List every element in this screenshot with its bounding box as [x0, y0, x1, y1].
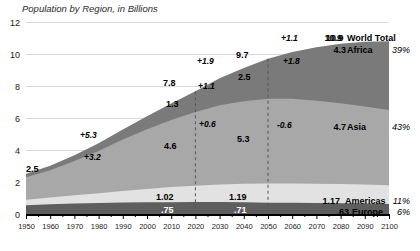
annotation-africa-upper-2020-2050: +1.1	[198, 81, 215, 91]
x-tick-2060: 2060	[280, 222, 306, 231]
point-label-asia-2020: 4.6	[164, 141, 177, 151]
legend-value-americas: 1.17	[318, 196, 340, 206]
y-tick-2: 2	[2, 178, 20, 188]
y-tick-10: 10	[2, 50, 20, 60]
legend-pct-asia: 43%	[386, 122, 410, 132]
x-tick-2100: 2100	[377, 222, 403, 231]
x-tick-2090: 2090	[352, 222, 378, 231]
x-tick-1990: 1990	[110, 222, 136, 231]
legend-pct-europe: 6%	[386, 207, 410, 217]
chart-root: Population by Region, in Billions 12 10 …	[0, 0, 420, 251]
chart-title: Population by Region, in Billions	[22, 3, 158, 14]
point-label-americas-2050: 1.19	[229, 192, 247, 202]
y-tick-12: 12	[2, 18, 20, 28]
annotation-africa-2050-2100: +1.8	[283, 56, 300, 66]
total-label-2020: 7.8	[163, 78, 176, 88]
legend-name-europe: Europe	[352, 207, 383, 217]
y-tick-8: 8	[2, 82, 20, 92]
annotation-africa-2020-2050: +1.9	[197, 56, 214, 66]
legend-value-europe: .63	[327, 207, 349, 217]
x-tick-1970: 1970	[62, 222, 88, 231]
y-tick-6: 6	[2, 114, 20, 124]
x-tick-2020: 2020	[183, 222, 209, 231]
legend-pct-americas: 11%	[386, 196, 410, 206]
legend-value-world-total: 10.9	[320, 33, 342, 43]
y-tick-0: 0	[2, 210, 20, 220]
point-label-africa-2050: 2.5	[238, 72, 251, 82]
x-tick-2000: 2000	[135, 222, 161, 231]
x-tick-2040: 2040	[231, 222, 257, 231]
point-label-europe-2050: .71	[234, 205, 247, 215]
annotation-total-2050-2100: +1.1	[281, 33, 298, 43]
x-tick-2010: 2010	[159, 222, 185, 231]
legend-name-world-total: World Total	[347, 33, 396, 43]
total-label-1950: 2.5	[26, 164, 39, 174]
legend-name-americas: Americas	[345, 196, 386, 206]
x-tick-1960: 1960	[38, 222, 64, 231]
x-tick-2050: 2050	[256, 222, 282, 231]
point-label-africa-2020: 1.3	[166, 99, 179, 109]
x-tick-2070: 2070	[304, 222, 330, 231]
x-tick-2080: 2080	[328, 222, 354, 231]
point-label-asia-2050: 5.3	[237, 134, 250, 144]
legend-value-asia: 4.7	[324, 122, 346, 132]
annotation-asia-1950-2020: +5.3	[80, 130, 97, 140]
point-label-europe-2020: .75	[161, 205, 174, 215]
total-label-2050: 9.7	[236, 50, 249, 60]
y-tick-4: 4	[2, 146, 20, 156]
annotation-asia-2020-2050: +0.6	[199, 119, 216, 129]
annotation-asia-2050-2100: -0.6	[277, 120, 292, 130]
x-tick-1980: 1980	[86, 222, 112, 231]
legend-name-africa: Africa	[347, 45, 373, 55]
legend-value-africa: 4.3	[324, 45, 346, 55]
point-label-americas-2020: 1.02	[156, 192, 174, 202]
legend-name-asia: Asia	[347, 122, 366, 132]
legend-pct-africa: 39%	[386, 45, 410, 55]
x-tick-2030: 2030	[207, 222, 233, 231]
x-tick-1950: 1950	[14, 222, 40, 231]
annotation-asia-lower-1950-2020: +3.2	[84, 152, 101, 162]
